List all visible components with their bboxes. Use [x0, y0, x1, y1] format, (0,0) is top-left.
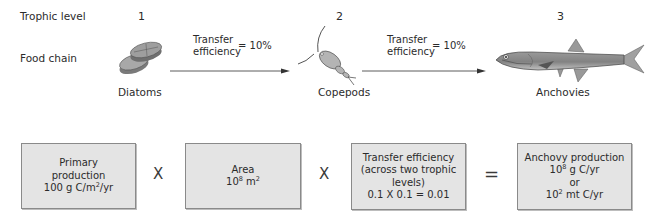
area-box: Area 108 m2	[185, 143, 301, 209]
transfer-2-line1: Transfer	[387, 34, 427, 46]
transfer-2-line2: efficiency	[387, 46, 435, 58]
diatom-icon	[116, 40, 166, 80]
transfer-1-value: = 10%	[238, 40, 272, 51]
primary-line3: 100 g C/m2/yr	[44, 182, 113, 195]
primary-line1: Primary	[59, 157, 98, 170]
copepods-label: Copepods	[318, 86, 370, 98]
arrow-diatoms-to-copepods	[170, 59, 290, 78]
transfer-1-line1: Transfer	[193, 34, 233, 46]
result-line4: 102 mt C/yr	[546, 189, 603, 202]
transfer-1-line2: efficiency	[193, 46, 241, 58]
transfer-2-value: = 10%	[432, 40, 466, 51]
copepod-icon	[298, 22, 370, 96]
area-line2: 108 m2	[226, 176, 260, 189]
result-line2: 108 g C/yr	[550, 164, 600, 177]
multiply-operator-1: X	[153, 165, 163, 183]
trophic-level-1: 1	[138, 10, 145, 23]
transfer-line1: Transfer efficiency	[363, 152, 454, 165]
trophic-level-label: Trophic level	[20, 10, 86, 22]
result-line1: Anchovy production	[525, 152, 625, 165]
result-line3: or	[569, 177, 579, 190]
transfer-efficiency-box: Transfer efficiency (across two trophic …	[351, 143, 466, 210]
equals-operator: =	[484, 163, 499, 184]
anchovy-production-box: Anchovy production 108 g C/yr or 102 mt …	[517, 143, 632, 210]
primary-production-box: Primary production 100 g C/m2/yr	[21, 143, 136, 209]
transfer-line2: (across two trophic	[361, 164, 456, 177]
transfer-line3: levels)	[392, 177, 425, 190]
trophic-level-3: 3	[557, 10, 564, 23]
food-chain-label: Food chain	[20, 52, 77, 64]
diatoms-label: Diatoms	[118, 86, 162, 98]
multiply-operator-2: X	[319, 165, 329, 183]
arrow-copepods-to-anchovies	[362, 59, 486, 78]
anchovies-label: Anchovies	[536, 86, 590, 98]
anchovy-icon	[492, 37, 652, 89]
transfer-line4: 0.1 X 0.1 = 0.01	[367, 189, 449, 202]
